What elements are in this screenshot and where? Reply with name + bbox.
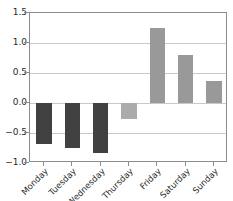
y-axis-tick-label: −0.5 (0, 128, 27, 137)
y-axis-tick-label: 0.5 (0, 68, 27, 77)
bar (36, 103, 52, 144)
bar (178, 55, 194, 103)
gridline (30, 43, 226, 44)
gridline (30, 133, 226, 134)
x-axis-tick-mark (156, 162, 157, 166)
bar (65, 103, 81, 148)
bar (206, 81, 222, 103)
y-axis-tick-label: 1.5 (0, 8, 27, 17)
y-axis-tick-label: −1.0 (0, 158, 27, 167)
bar (93, 103, 109, 153)
plot-area (29, 12, 227, 162)
gridline (30, 73, 226, 74)
x-axis-tick-mark (71, 162, 72, 166)
bar (150, 28, 166, 103)
y-axis-tick-label: 1.0 (0, 38, 27, 47)
y-axis-tick-label: 0.0 (0, 98, 27, 107)
bar-chart: 1.51.00.50.0−0.5−1.0 MondayTuesdayWednes… (0, 0, 233, 201)
y-axis-tick-mark (24, 162, 29, 163)
bar (121, 103, 137, 119)
